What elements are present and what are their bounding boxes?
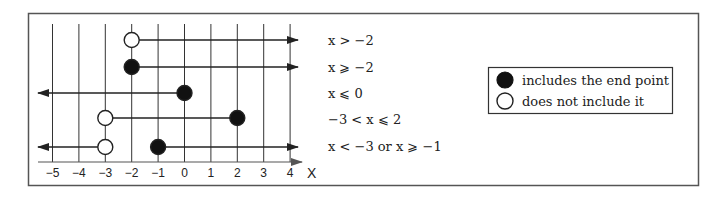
inequality-label: x > −2 bbox=[328, 33, 374, 48]
tick-label: −3 bbox=[98, 166, 112, 180]
tick-label: 3 bbox=[260, 166, 267, 180]
tick-label: 1 bbox=[208, 166, 215, 180]
tick-label: −2 bbox=[125, 166, 139, 180]
solution-row bbox=[38, 140, 298, 155]
solution-row bbox=[38, 86, 192, 101]
filled-circle-icon bbox=[230, 111, 245, 126]
inequality-number-line-diagram: −5−4−3−2−101234 X x > −2 x ⩾ −2 x ⩽ 0 −3… bbox=[0, 0, 719, 199]
tick-label: −1 bbox=[151, 166, 165, 180]
legend: includes the end point does not include … bbox=[489, 68, 673, 114]
filled-circle-icon bbox=[177, 86, 192, 101]
inequality-label: x < −3 or x ⩾ −1 bbox=[328, 139, 442, 154]
legend-label-excludes: does not include it bbox=[522, 94, 645, 109]
tick-label: −4 bbox=[72, 166, 86, 180]
inequality-label: −3 < x ⩽ 2 bbox=[328, 112, 401, 127]
inequality-label: x ⩽ 0 bbox=[328, 86, 363, 101]
tick-labels: −5−4−3−2−101234 bbox=[46, 166, 294, 180]
open-circle-icon bbox=[98, 140, 113, 155]
inequality-label: x ⩾ −2 bbox=[328, 60, 374, 75]
filled-circle-icon bbox=[124, 60, 139, 75]
tick-label: 4 bbox=[287, 166, 294, 180]
filled-circle-icon bbox=[151, 140, 166, 155]
open-circle-icon bbox=[98, 111, 113, 126]
axis-label: X bbox=[307, 165, 317, 181]
tick-label: 0 bbox=[181, 166, 188, 180]
filled-circle-icon bbox=[497, 72, 513, 88]
inequality-labels: x > −2 x ⩾ −2 x ⩽ 0 −3 < x ⩽ 2 x < −3 or… bbox=[328, 33, 442, 154]
solution-row bbox=[98, 111, 245, 126]
tick-label: −5 bbox=[46, 166, 60, 180]
solution-rows bbox=[38, 33, 298, 155]
legend-label-includes: includes the end point bbox=[522, 73, 670, 88]
open-circle-icon bbox=[497, 93, 513, 109]
tick-label: 2 bbox=[234, 166, 241, 180]
open-circle-icon bbox=[124, 33, 139, 48]
